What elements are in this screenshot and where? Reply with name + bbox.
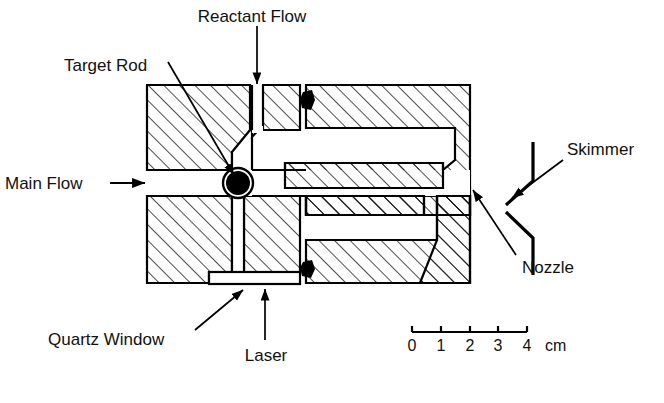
body-block-center-lower bbox=[244, 196, 300, 272]
label-reactant-flow: Reactant Flow bbox=[198, 7, 307, 26]
label-skimmer: Skimmer bbox=[567, 140, 634, 159]
label-target-rod: Target Rod bbox=[64, 56, 147, 75]
label-quartz-window: Quartz Window bbox=[48, 330, 165, 349]
target-rod bbox=[223, 168, 253, 198]
laser-channel bbox=[232, 196, 244, 272]
chamber-shelf-upper-redraw bbox=[285, 163, 443, 188]
scale-unit-label: cm bbox=[545, 337, 566, 354]
quartz-window bbox=[209, 272, 300, 284]
label-nozzle: Nozzle bbox=[522, 258, 574, 277]
label-main-flow: Main Flow bbox=[5, 174, 83, 193]
body-block-lower-left bbox=[147, 196, 232, 283]
scale-tick-2: 2 bbox=[466, 337, 475, 354]
reactant-inlet-channel bbox=[252, 85, 263, 133]
cross-section-drawing: Target Rod Reactant Flow Main Flow Skimm… bbox=[0, 0, 664, 403]
chamber-shelf-lower-redraw bbox=[306, 196, 470, 215]
scale-tick-3: 3 bbox=[494, 337, 503, 354]
scale-tick-0: 0 bbox=[408, 337, 417, 354]
scale-tick-4: 4 bbox=[523, 337, 532, 354]
scale-tick-1: 1 bbox=[437, 337, 446, 354]
label-laser: Laser bbox=[245, 346, 288, 365]
figure-canvas: Target Rod Reactant Flow Main Flow Skimm… bbox=[0, 0, 664, 403]
